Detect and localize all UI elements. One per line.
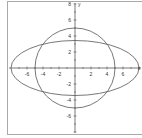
svg-text:6: 6 (68, 17, 71, 23)
svg-text:6: 6 (122, 71, 125, 77)
svg-text:4: 4 (68, 33, 71, 39)
svg-text:-6: -6 (25, 71, 30, 77)
svg-text:-4: -4 (41, 71, 46, 77)
svg-text:2: 2 (90, 71, 93, 77)
svg-text:-6: -6 (67, 113, 72, 119)
svg-text:-4: -4 (67, 97, 72, 103)
svg-text:8: 8 (68, 1, 71, 7)
svg-text:2: 2 (68, 49, 71, 55)
chart: -6 -4 -2 2 4 6 x 8 6 4 2 -2 -4 -6 y (0, 0, 142, 138)
svg-text:4: 4 (106, 71, 109, 77)
svg-text:-2: -2 (57, 71, 62, 77)
svg-text:-2: -2 (67, 81, 72, 87)
